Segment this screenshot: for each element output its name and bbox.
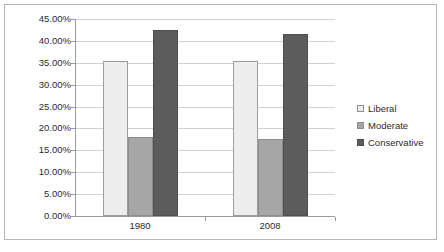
bar-moderate-1980 xyxy=(128,137,153,216)
legend-label: Moderate xyxy=(368,121,408,131)
legend-item-liberal[interactable]: Liberal xyxy=(357,100,435,117)
y-axis-tick-label: 15.00% xyxy=(39,146,71,156)
legend-swatch-icon xyxy=(357,139,364,146)
legend-label: Conservative xyxy=(368,138,423,148)
y-axis-tick-label: 20.00% xyxy=(39,124,71,134)
chart-legend: LiberalModerateConservative xyxy=(357,100,435,151)
y-axis-tick-label: 10.00% xyxy=(39,167,71,177)
legend-item-moderate[interactable]: Moderate xyxy=(357,117,435,134)
legend-label: Liberal xyxy=(368,104,397,114)
bar-liberal-2008 xyxy=(233,61,258,216)
y-axis-tick-label: 45.00% xyxy=(39,14,71,24)
chart-frame: 0.00%5.00%10.00%15.00%20.00%25.00%30.00%… xyxy=(4,4,437,240)
legend-swatch-icon xyxy=(357,105,364,112)
y-axis-tick-label: 25.00% xyxy=(39,102,71,112)
y-axis-line xyxy=(75,19,76,217)
bar-conservative-1980 xyxy=(153,30,178,216)
x-axis-label-1980: 1980 xyxy=(75,221,205,231)
legend-swatch-icon xyxy=(357,122,364,129)
bar-liberal-1980 xyxy=(103,61,128,216)
x-axis-label-2008: 2008 xyxy=(205,221,335,231)
plot-area xyxy=(75,19,335,217)
x-axis-category-labels: 19802008 xyxy=(75,221,335,235)
y-axis-tick-label: 5.00% xyxy=(44,189,71,199)
y-axis-tick-label: 40.00% xyxy=(39,36,71,46)
bar-conservative-2008 xyxy=(283,34,308,216)
legend-item-conservative[interactable]: Conservative xyxy=(357,134,435,151)
y-axis-tick-label: 30.00% xyxy=(39,80,71,90)
gridline xyxy=(75,19,335,20)
y-axis-tick-labels: 0.00%5.00%10.00%15.00%20.00%25.00%30.00%… xyxy=(19,19,71,217)
x-axis-tick xyxy=(335,217,336,221)
y-axis-tick-label: 35.00% xyxy=(39,58,71,68)
y-axis-tick-label: 0.00% xyxy=(44,211,71,221)
bar-moderate-2008 xyxy=(258,139,283,216)
